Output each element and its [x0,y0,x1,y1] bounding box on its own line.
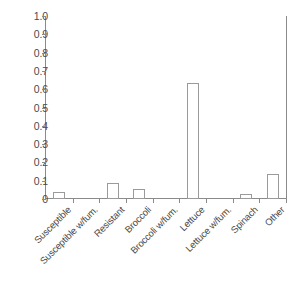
bar [53,192,65,199]
bar-slot [206,16,233,199]
bar [267,174,279,199]
y-axis-tick-mark [42,34,46,35]
y-axis-tick-mark [42,71,46,72]
y-axis-tick-mark [42,16,46,17]
bar [107,183,119,199]
y-axis-tick-mark [42,126,46,127]
bar-slot [153,16,180,199]
plot-area [46,16,286,199]
y-axis-tick-mark [42,181,46,182]
y-axis-tick-mark [42,89,46,90]
bar [133,189,145,199]
y-axis-tick-mark [42,144,46,145]
bar-slot [179,16,206,199]
bar-slot [46,16,73,199]
y-axis-tick-mark [42,162,46,163]
bar-chart-figure: 1.00.90.80.70.60.50.40.30.20.10 Suscepti… [0,0,302,288]
bar-slot [126,16,153,199]
y-axis-tick-mark [42,53,46,54]
bar [187,83,199,199]
x-axis-label-group: SusceptibleSusceptible w/fum.ResistantBr… [0,199,302,288]
bar-slot [233,16,260,199]
bar-slot [73,16,100,199]
bar-slot [99,16,126,199]
y-axis-tick-mark [42,108,46,109]
bar-slot [259,16,286,199]
right-axis-line [286,16,287,199]
y-axis-tick-mark [42,199,46,200]
